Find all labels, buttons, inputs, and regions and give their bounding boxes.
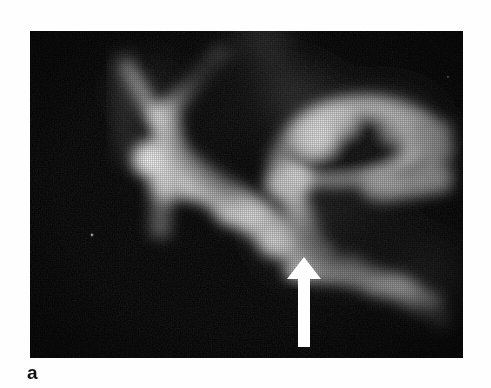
radiograph-image bbox=[30, 31, 463, 358]
panel-label: a bbox=[27, 363, 38, 382]
figure-root: a bbox=[0, 0, 491, 388]
radiograph-panel bbox=[30, 31, 463, 358]
